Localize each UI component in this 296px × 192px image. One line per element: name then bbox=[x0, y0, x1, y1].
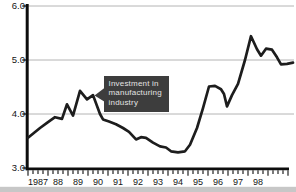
annotation-text-line: industry bbox=[109, 98, 139, 107]
x-tick-label: 98 bbox=[253, 177, 263, 187]
x-tick-label: 97 bbox=[233, 177, 243, 187]
y-axis-labels: 6.05.04.03.0 bbox=[12, 0, 25, 173]
y-tick-label: 3.0 bbox=[12, 162, 25, 173]
annotation-text-line: manufacturing bbox=[109, 88, 162, 97]
y-tick-label: 6.0 bbox=[12, 0, 25, 11]
x-tick-label: 91 bbox=[113, 177, 123, 187]
x-axis-ticks bbox=[28, 170, 288, 176]
x-tick-label: 95 bbox=[193, 177, 203, 187]
annotation-callout: Investment inmanufacturingindustry bbox=[95, 76, 170, 112]
x-tick-label: 94 bbox=[173, 177, 183, 187]
x-tick-label: 93 bbox=[153, 177, 163, 187]
y-tick-label: 5.0 bbox=[12, 54, 25, 65]
x-tick-label: 90 bbox=[93, 177, 103, 187]
x-tick-label: 1987 bbox=[28, 177, 48, 187]
x-tick-label: 88 bbox=[53, 177, 63, 187]
bottom-strip bbox=[0, 187, 296, 192]
x-tick-label: 92 bbox=[133, 177, 143, 187]
x-axis-labels: 19878889909192939495969798 bbox=[28, 177, 263, 187]
x-tick-label: 89 bbox=[73, 177, 83, 187]
y-tick-label: 4.0 bbox=[12, 108, 25, 119]
y-axis-ticks bbox=[22, 6, 26, 168]
bottom-edge-strip bbox=[0, 187, 296, 192]
annotation-text-line: Investment in bbox=[109, 79, 159, 88]
chart-canvas: 6.05.04.03.0 19878889909192939495969798 … bbox=[0, 0, 296, 192]
investment-line-chart: 6.05.04.03.0 19878889909192939495969798 … bbox=[0, 0, 296, 192]
x-tick-label: 96 bbox=[213, 177, 223, 187]
